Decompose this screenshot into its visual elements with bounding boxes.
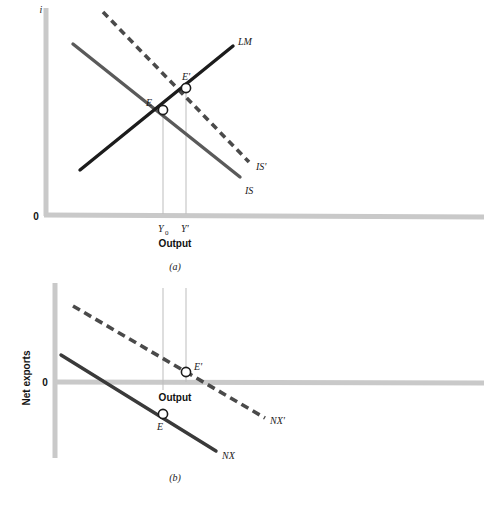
panel-b-zero-label: 0 [42,377,48,388]
panel-b-x-axis-title: Output [159,392,192,403]
curve-label-nx-shifted: NX' [269,415,286,426]
panel-a-origin-label: 0 [33,211,39,222]
point-e-prime-panel-b [181,367,190,376]
panel-b: Net exports 0 NX' NX E E' Output (b) [21,283,484,484]
point-e-panel-b [158,409,167,418]
panel-a-x-axis [44,215,484,217]
point-label-e-prime-panel-a: E' [181,71,191,82]
panel-b-caption: (b) [169,472,181,484]
point-label-e-panel-b: E [156,421,163,432]
point-label-e-prime-panel-b: E' [193,361,203,372]
curve-label-is-shifted: IS' [255,161,267,172]
curve-label-is: IS [244,185,253,196]
curve-nx [61,355,216,451]
panel-a-tick-y0-main: Y [158,223,165,234]
panel-a-tick-yprime: Y' [181,223,190,234]
panel-a-x-axis-title: Output [159,238,192,249]
panel-b-zero-axis [53,382,484,383]
panel-a-tick-y0-subscript: 0 [165,229,169,237]
panel-a: i 0 LM IS IS' E E' Y 0 Y' Output (a) [33,4,484,273]
point-e-panel-a [158,105,167,114]
panel-a-y-axis-label: i [40,4,43,15]
figure-root: i 0 LM IS IS' E E' Y 0 Y' Output (a) [0,0,496,509]
curve-label-nx: NX [221,450,236,461]
point-label-e-panel-a: E [145,97,152,108]
curve-label-lm: LM [237,36,253,47]
point-e-prime-panel-a [181,83,190,92]
panel-a-caption: (a) [169,261,181,273]
panel-b-y-axis-title: Net exports [21,350,32,405]
panel-a-tick-y0: Y 0 [158,223,169,237]
economics-figure: i 0 LM IS IS' E E' Y 0 Y' Output (a) [0,0,496,509]
